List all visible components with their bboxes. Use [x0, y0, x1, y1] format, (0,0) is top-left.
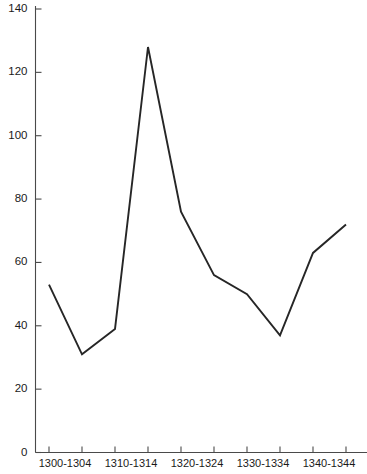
- y-tick-label: 100: [8, 129, 27, 141]
- x-tick-label: 1300-1304: [39, 457, 92, 469]
- y-tick-label: 140: [8, 2, 27, 14]
- y-tick-label: 60: [15, 255, 28, 267]
- y-tick-label: 20: [15, 382, 28, 394]
- x-tick-label: 1330-1334: [237, 457, 290, 469]
- data-series: [49, 47, 346, 354]
- y-tick-label: 80: [15, 192, 28, 204]
- x-tick-labels: 1300-13041310-13141320-13241330-13341340…: [39, 457, 356, 469]
- y-tick-label: 120: [8, 65, 27, 77]
- y-tick-label: 0: [21, 446, 27, 458]
- x-tick-label: 1340-1344: [303, 457, 356, 469]
- y-tick-labels: 140120100806040200: [8, 2, 27, 458]
- x-tick-marks: [49, 447, 346, 453]
- chart-container: 140120100806040200 1300-13041310-1314132…: [0, 0, 367, 474]
- y-tick-label: 40: [15, 319, 28, 331]
- line-chart-plot: 140120100806040200 1300-13041310-1314132…: [0, 0, 367, 474]
- y-tick-marks: [36, 9, 42, 453]
- x-tick-label: 1310-1314: [105, 457, 158, 469]
- x-tick-label: 1320-1324: [171, 457, 224, 469]
- series-line: [49, 47, 346, 354]
